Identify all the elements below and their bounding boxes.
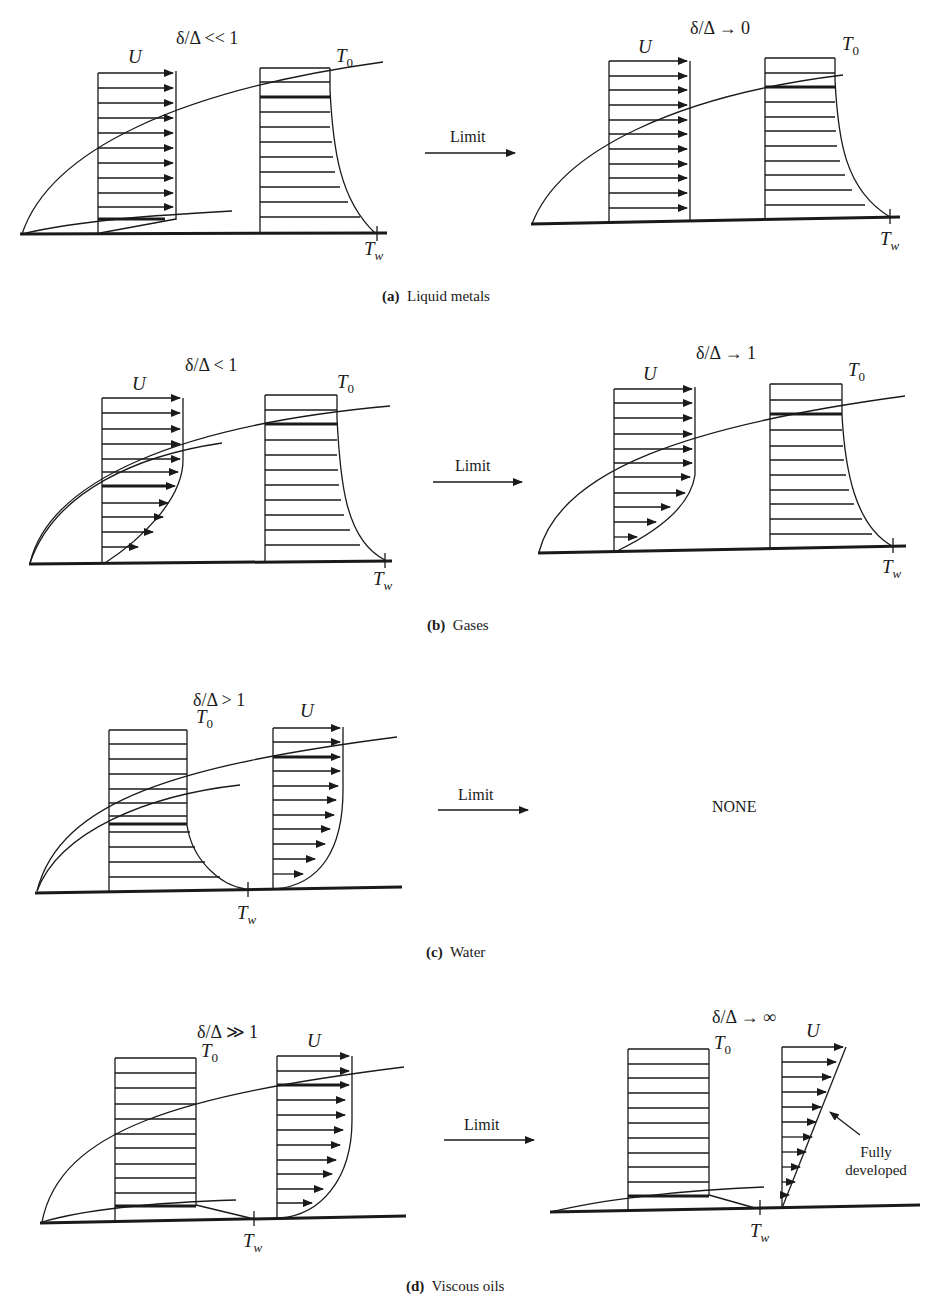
panel-b-right-tw-label: Tw [882, 556, 901, 578]
panel-b-left-tw-label: Tw [373, 568, 392, 590]
panel-a-right-u-label: U [638, 36, 652, 58]
panel-a-left-u-label: U [128, 46, 142, 68]
panel-d-left-tw-label: Tw [243, 1230, 262, 1252]
panel-b-right-diagram [538, 384, 906, 553]
panel-d-right-tw-label: Tw [750, 1220, 769, 1242]
panel-d-right-ratio: δ/Δ → ∞ [712, 1007, 776, 1028]
panel-d-caption: (d) Viscous oils [406, 1278, 504, 1295]
panel-a-left-diagram [20, 62, 387, 241]
panel-b-left-u-label: U [132, 373, 146, 395]
panel-c-caption: (c) Water [426, 944, 485, 961]
panel-a-left-ratio: δ/Δ << 1 [176, 28, 238, 49]
panel-c-left-tw-label: Tw [237, 902, 256, 924]
panel-a-right-diagram [531, 58, 900, 224]
panel-b-left-diagram [29, 395, 392, 568]
panel-d-limit-label: Limit [464, 1116, 500, 1134]
panel-d-left-u-label: U [307, 1030, 321, 1052]
panel-b-caption: (b) Gases [427, 617, 489, 634]
panel-b-left-t0-label: T0 [337, 371, 354, 393]
panel-a-right-t0-label: T0 [842, 33, 859, 55]
panel-c-limit-label: Limit [458, 786, 494, 804]
panel-c-right-result: NONE [712, 798, 756, 816]
panel-a-right-ratio: δ/Δ → 0 [690, 18, 750, 39]
panel-a-right-tw-label: Tw [880, 228, 899, 250]
panel-d-right-diagram [550, 1047, 920, 1215]
panel-b-right-ratio: δ/Δ → 1 [696, 343, 756, 364]
panel-d-right-u-label: U [806, 1020, 820, 1042]
panel-a-limit-label: Limit [450, 128, 486, 146]
panel-d-left-diagram [40, 1056, 406, 1226]
panel-b-right-t0-label: T0 [848, 359, 865, 381]
panel-d-right-t0-label: T0 [714, 1032, 731, 1054]
panel-b-limit-label: Limit [455, 457, 491, 475]
panel-a-caption: (a) Liquid metals [382, 288, 490, 305]
panel-a-left-t0-label: T0 [336, 45, 353, 67]
panel-c-left-u-label: U [300, 700, 314, 722]
panel-c-left-t0-label: T0 [196, 706, 213, 728]
fully-developed-annotation: Fully developed [836, 1143, 916, 1179]
panel-d-left-t0-label: T0 [201, 1040, 218, 1062]
panel-c-left-diagram [35, 727, 402, 897]
panel-a-left-tw-label: Tw [364, 238, 383, 260]
panel-b-right-u-label: U [643, 363, 657, 385]
panel-b-left-ratio: δ/Δ < 1 [185, 355, 237, 376]
